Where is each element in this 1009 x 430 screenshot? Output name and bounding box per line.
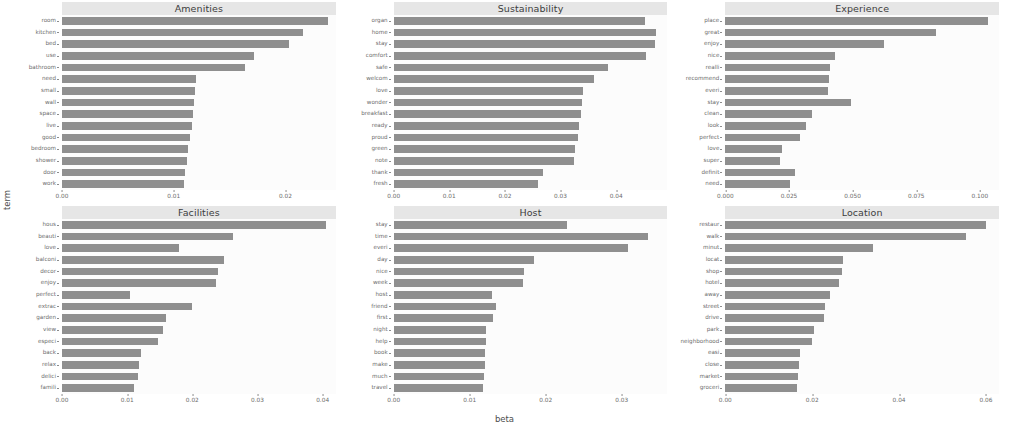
x-axis-tick-label: 0.000 bbox=[717, 190, 734, 199]
bar-row bbox=[62, 157, 336, 165]
plot-panel bbox=[62, 219, 336, 394]
y-axis-tick-label: bed bbox=[45, 41, 59, 47]
bar-row bbox=[394, 338, 668, 346]
bar bbox=[725, 40, 884, 48]
bar-row bbox=[725, 314, 999, 322]
bar-row bbox=[394, 291, 668, 299]
x-axis-tick-label: 0.00 bbox=[387, 394, 400, 403]
bar-row bbox=[62, 134, 336, 142]
bar-series bbox=[725, 15, 999, 190]
x-axis-tick-label: 0.03 bbox=[554, 190, 567, 199]
y-axis-tick-label: thank bbox=[372, 170, 391, 176]
y-axis-tick-label: day bbox=[377, 257, 390, 263]
bar-row bbox=[62, 279, 336, 287]
bar-row bbox=[725, 256, 999, 264]
bar-row bbox=[394, 52, 668, 60]
x-axis: 0.000.010.020.030.04 bbox=[394, 190, 668, 204]
bar-row bbox=[62, 349, 336, 357]
bar bbox=[62, 180, 184, 188]
bar bbox=[394, 134, 578, 142]
y-axis-tick-label: much bbox=[372, 374, 391, 380]
bar bbox=[725, 314, 824, 322]
x-axis-tick-label: 0.01 bbox=[443, 190, 456, 199]
bar bbox=[394, 221, 567, 229]
y-axis-tick-label: wonder bbox=[367, 100, 391, 106]
bar bbox=[725, 52, 834, 60]
bar-row bbox=[394, 29, 668, 37]
bar-row bbox=[62, 314, 336, 322]
y-axis-tick-label: space bbox=[40, 111, 59, 117]
bar-row bbox=[725, 279, 999, 287]
bar-row bbox=[62, 180, 336, 188]
x-axis-tick-label: 0.00 bbox=[387, 190, 400, 199]
bar-row bbox=[725, 384, 999, 392]
x-axis-tick-label: 0.00 bbox=[719, 394, 732, 403]
bar-row bbox=[394, 326, 668, 334]
bar bbox=[394, 326, 487, 334]
panel-wrap: roomkitchenbedusebathroomneedsmallwallsp… bbox=[14, 15, 336, 190]
bar-row bbox=[62, 338, 336, 346]
bar bbox=[725, 169, 794, 177]
y-axis-tick-label: beauti bbox=[38, 234, 59, 240]
bar-row bbox=[62, 221, 336, 229]
y-axis-tick-label: place bbox=[704, 18, 722, 24]
y-axis-tick-label: stay bbox=[376, 222, 391, 228]
bar bbox=[725, 256, 843, 264]
bar bbox=[725, 64, 829, 72]
facet-strip-label: Amenities bbox=[62, 2, 336, 15]
bar bbox=[394, 303, 496, 311]
y-axis-tick-label: easi bbox=[708, 350, 722, 356]
y-axis-tick-label: kitchen bbox=[35, 30, 59, 36]
y-axis-title-text: term bbox=[2, 190, 12, 210]
bar-row bbox=[725, 233, 999, 241]
bar bbox=[62, 29, 303, 37]
y-axis-tick-label: live bbox=[46, 123, 59, 129]
x-axis-tick-label: 0.04 bbox=[316, 394, 329, 403]
plot-panel bbox=[62, 15, 336, 190]
bar bbox=[394, 157, 574, 165]
bar-row bbox=[725, 99, 999, 107]
bar bbox=[394, 373, 484, 381]
bar bbox=[725, 29, 936, 37]
bar bbox=[394, 268, 525, 276]
y-axis-tick-label: night bbox=[373, 327, 390, 333]
y-axis-tick-label: garden bbox=[36, 315, 59, 321]
x-axis-tick-label: 0.02 bbox=[539, 394, 552, 403]
bar bbox=[62, 326, 163, 334]
bar-row bbox=[394, 157, 668, 165]
plot-panel bbox=[394, 219, 668, 394]
x-axis: 0.0000.0250.0500.0750.100 bbox=[725, 190, 999, 204]
y-axis-tick-label: neighborhood bbox=[681, 339, 723, 345]
y-axis-tick-labels: organhomestaycomfortsafewelcomlovewonder… bbox=[346, 15, 394, 190]
bar bbox=[62, 87, 195, 95]
bar bbox=[62, 64, 245, 72]
y-axis-tick-label: groceri bbox=[700, 385, 723, 391]
y-axis-tick-label: stay bbox=[376, 41, 391, 47]
x-axis-tick-label: 0.03 bbox=[615, 394, 628, 403]
y-axis-tick-label: famili bbox=[40, 385, 59, 391]
y-axis-tick-label: fresh bbox=[374, 181, 391, 187]
bar-series bbox=[725, 219, 999, 394]
bar-row bbox=[394, 99, 668, 107]
bar-row bbox=[62, 169, 336, 177]
bar-row bbox=[394, 361, 668, 369]
y-axis-tick-label: need bbox=[42, 76, 59, 82]
y-axis-tick-labels: roomkitchenbedusebathroomneedsmallwallsp… bbox=[14, 15, 62, 190]
y-axis-tick-label: park bbox=[707, 327, 723, 333]
bar-row bbox=[394, 256, 668, 264]
y-axis-tick-label: balconi bbox=[36, 257, 59, 263]
x-axis-tick-label: 0.06 bbox=[979, 394, 992, 403]
bar bbox=[725, 384, 797, 392]
bar-row bbox=[62, 17, 336, 25]
bar bbox=[394, 244, 628, 252]
x-axis-tick-label: 0.02 bbox=[498, 190, 511, 199]
y-axis-tick-label: host bbox=[376, 292, 391, 298]
bar bbox=[725, 244, 873, 252]
x-axis-tick-label: 0.00 bbox=[56, 190, 69, 199]
bar bbox=[62, 221, 326, 229]
bar-row bbox=[394, 303, 668, 311]
y-axis-tick-label: view bbox=[43, 327, 59, 333]
bar-row bbox=[725, 40, 999, 48]
bar-row bbox=[725, 122, 999, 130]
y-axis-tick-label: definit bbox=[702, 170, 723, 176]
